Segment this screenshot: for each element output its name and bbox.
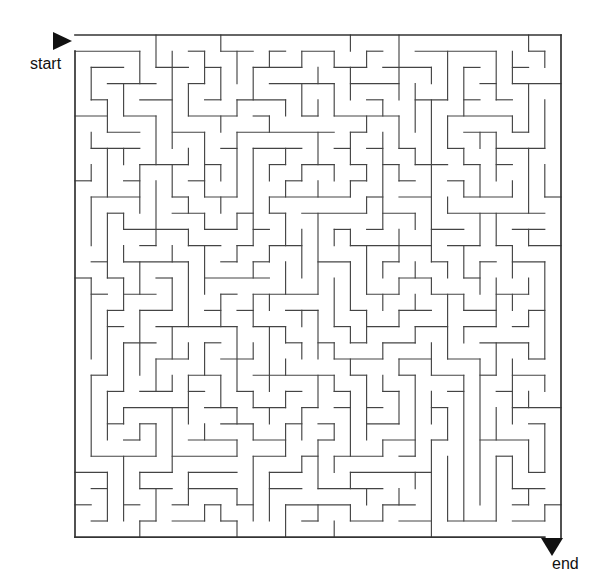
maze-walls [75, 35, 561, 537]
end-label: end [552, 556, 579, 572]
maze-puzzle: start end [0, 0, 596, 578]
triangle-down-icon [541, 538, 563, 556]
triangle-right-icon [53, 32, 72, 50]
maze-canvas [0, 0, 596, 578]
start-label: start [30, 56, 61, 72]
